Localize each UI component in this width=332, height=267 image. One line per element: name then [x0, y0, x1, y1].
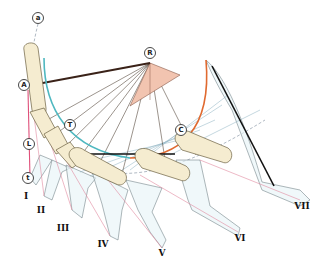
stage-II: II [37, 205, 45, 215]
label-T: T [65, 120, 76, 131]
limb-motion-diagram: a R A T C L t I II III IV V [0, 0, 332, 267]
svg-text:a: a [36, 14, 41, 22]
angle-triangle [130, 63, 180, 106]
stage-V: V [158, 248, 167, 258]
stage-I: I [24, 191, 28, 201]
svg-text:A: A [21, 81, 27, 89]
stage-VII: VII [293, 201, 309, 211]
radius-line-A-R [32, 63, 150, 85]
label-a: a [33, 13, 44, 24]
stage-labels: I II III IV V VI VII [24, 191, 310, 258]
label-R: R [145, 48, 156, 59]
label-L: L [24, 139, 35, 150]
stage-IV: IV [97, 239, 109, 249]
svg-text:C: C [178, 126, 183, 134]
stage-VI: VI [233, 233, 245, 243]
stage-III: III [57, 223, 70, 233]
segment-long-3 [175, 131, 232, 163]
label-t: t [23, 173, 34, 184]
svg-text:R: R [147, 49, 153, 57]
svg-text:T: T [68, 121, 73, 129]
label-A: A [19, 80, 30, 91]
segment-upper [24, 43, 46, 117]
svg-text:L: L [27, 140, 32, 148]
black-diagonal-VII [212, 66, 274, 186]
label-C: C [176, 125, 187, 136]
